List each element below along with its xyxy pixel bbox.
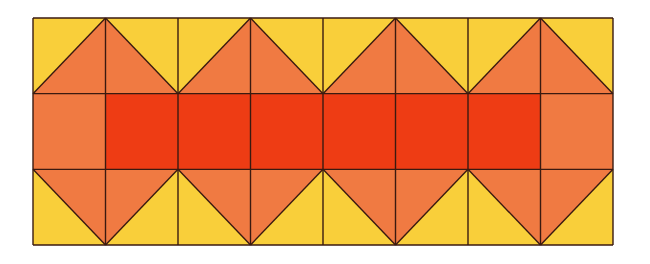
square-cell [251,94,324,170]
square-cell [323,94,396,170]
tessellation-diagram [0,0,650,264]
square-cell [396,94,469,170]
square-cell [178,94,251,170]
square-cell [106,94,179,170]
square-cell [468,94,541,170]
square-cell [541,94,614,170]
square-cell [33,94,106,170]
